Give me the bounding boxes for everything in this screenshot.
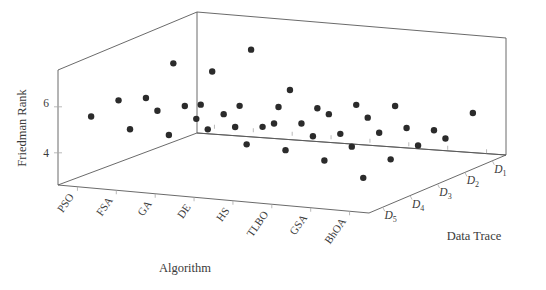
data-point bbox=[282, 147, 288, 153]
data-markers bbox=[88, 46, 476, 181]
floor-back-edge bbox=[58, 133, 506, 185]
x-category-label-pso: PSO bbox=[55, 191, 76, 214]
data-point bbox=[326, 111, 332, 117]
data-point bbox=[115, 97, 121, 103]
y-category-label-d5: D5 bbox=[384, 209, 397, 224]
data-point bbox=[287, 87, 293, 93]
data-point bbox=[248, 46, 254, 52]
data-point bbox=[349, 143, 355, 149]
friedman-rank-3d-scatter-plot: 4 6 Friedman Rank Algorithm Data Trace P… bbox=[0, 0, 546, 290]
data-point bbox=[143, 95, 149, 101]
data-point bbox=[314, 105, 320, 111]
data-point bbox=[310, 133, 316, 139]
data-point bbox=[170, 60, 176, 66]
data-point bbox=[442, 135, 448, 141]
y-category-label-d1: D1 bbox=[493, 163, 506, 178]
data-point bbox=[236, 103, 242, 109]
data-point bbox=[205, 126, 211, 132]
data-point bbox=[470, 110, 476, 116]
data-point bbox=[127, 126, 133, 132]
data-point bbox=[353, 102, 359, 108]
axes-frame bbox=[58, 12, 506, 213]
x-category-label-gsa: GSA bbox=[287, 212, 309, 237]
data-point bbox=[376, 130, 382, 136]
data-point bbox=[337, 131, 343, 137]
x-category-label-fsa: FSA bbox=[94, 195, 115, 218]
z-tick-label-6: 6 bbox=[43, 97, 49, 109]
data-point bbox=[198, 101, 204, 107]
y-category-label-d3: D3 bbox=[438, 186, 451, 201]
data-point bbox=[365, 114, 371, 120]
data-point bbox=[387, 156, 393, 162]
data-point bbox=[259, 124, 265, 130]
data-point bbox=[360, 175, 366, 181]
data-point bbox=[403, 125, 409, 131]
x-category-labels: PSOFSAGADEHSTLBOGSABhOA bbox=[55, 191, 349, 246]
data-point bbox=[182, 103, 188, 109]
data-point bbox=[220, 111, 226, 117]
data-point bbox=[275, 104, 281, 110]
floor-plane bbox=[58, 155, 506, 213]
data-point bbox=[298, 120, 304, 126]
data-point bbox=[431, 127, 437, 133]
data-point bbox=[392, 103, 398, 109]
x-category-label-ga: GA bbox=[135, 198, 154, 218]
y-category-label-d4: D4 bbox=[411, 198, 424, 213]
x-category-label-tlbo: TLBO bbox=[244, 209, 270, 239]
data-point bbox=[321, 157, 327, 163]
data-point bbox=[166, 132, 172, 138]
x-category-label-de: DE bbox=[174, 201, 192, 220]
x-axis-title: Algorithm bbox=[159, 261, 211, 275]
data-point bbox=[271, 120, 277, 126]
x-category-label-hs: HS bbox=[214, 205, 232, 223]
back-right-wall bbox=[197, 12, 506, 155]
data-point bbox=[415, 142, 421, 148]
y-axis-title: Data Trace bbox=[447, 229, 502, 243]
y-category-label-d2: D2 bbox=[466, 174, 479, 189]
data-point bbox=[88, 113, 94, 119]
data-point bbox=[154, 108, 160, 114]
data-point bbox=[193, 116, 199, 122]
z-axis-title: Friedman Rank bbox=[15, 89, 29, 167]
data-point bbox=[243, 141, 249, 147]
data-point bbox=[209, 68, 215, 74]
x-category-label-bhoa: BhOA bbox=[322, 216, 348, 246]
data-point bbox=[232, 124, 238, 130]
z-tick-label-4: 4 bbox=[43, 147, 49, 159]
y-category-labels: D1D2D3D4D5 bbox=[384, 163, 507, 224]
